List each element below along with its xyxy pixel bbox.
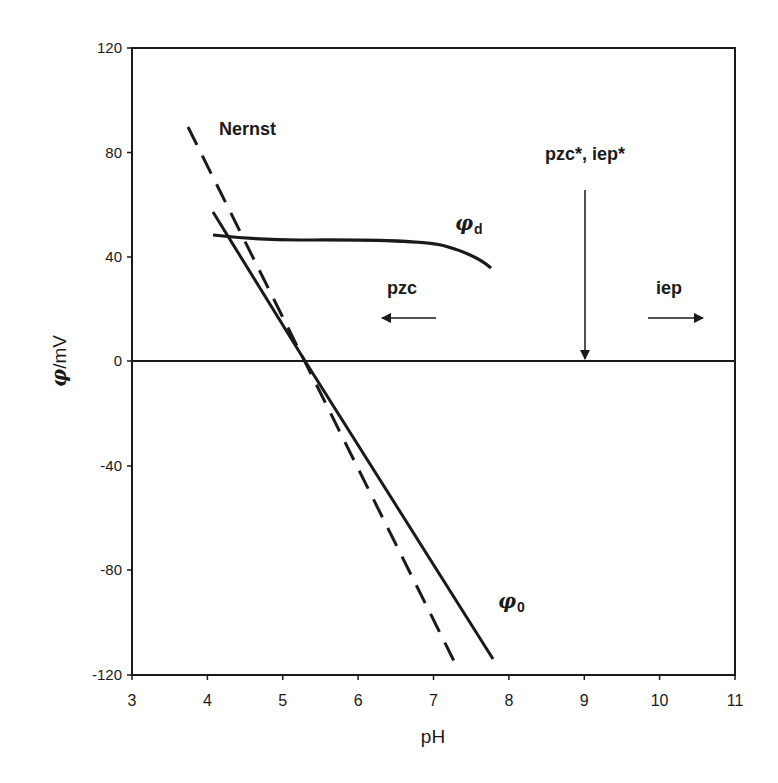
x-axis-label: pH — [421, 726, 445, 747]
x-tick-label: 7 — [429, 692, 438, 709]
y-tick-labels: 120 80 40 0 -40 -80 -120 — [92, 39, 122, 683]
phid-label: φd — [455, 211, 483, 237]
phi0-line — [213, 212, 493, 659]
phid-curve — [213, 235, 491, 268]
y-axis-label: φ/mV — [47, 335, 71, 387]
nernst-label: Nernst — [219, 119, 276, 139]
x-tick-label: 4 — [203, 692, 212, 709]
chart-canvas: 120 80 40 0 -40 -80 -120 3 4 5 6 7 8 9 1… — [0, 0, 778, 783]
y-tick-label: 0 — [114, 352, 122, 369]
y-axis-unit: /mV — [49, 335, 70, 369]
y-tick-label: -120 — [92, 666, 122, 683]
x-tick-label: 11 — [727, 692, 744, 709]
x-tick-label: 8 — [504, 692, 513, 709]
y-tick-label: -40 — [100, 457, 122, 474]
x-tick-label: 9 — [580, 692, 589, 709]
y-tick-label: -80 — [100, 561, 122, 578]
x-tick-labels: 3 4 5 6 7 8 9 10 11 — [128, 692, 744, 709]
x-tick-label: 5 — [278, 692, 287, 709]
pzc-iep-star-label: pzc*, iep* — [545, 144, 625, 164]
pzc-label: pzc — [387, 278, 417, 298]
x-tick-label: 10 — [651, 692, 669, 709]
x-tick-label: 3 — [128, 692, 137, 709]
phi-symbol: φ — [47, 369, 71, 387]
phi0-label: φ0 — [498, 589, 525, 615]
nernst-line — [188, 127, 458, 669]
y-tick-label: 80 — [105, 144, 122, 161]
y-tick-label: 40 — [105, 248, 122, 265]
y-tick-label: 120 — [97, 39, 122, 56]
x-tick-label: 6 — [354, 692, 363, 709]
iep-label: iep — [656, 278, 682, 298]
